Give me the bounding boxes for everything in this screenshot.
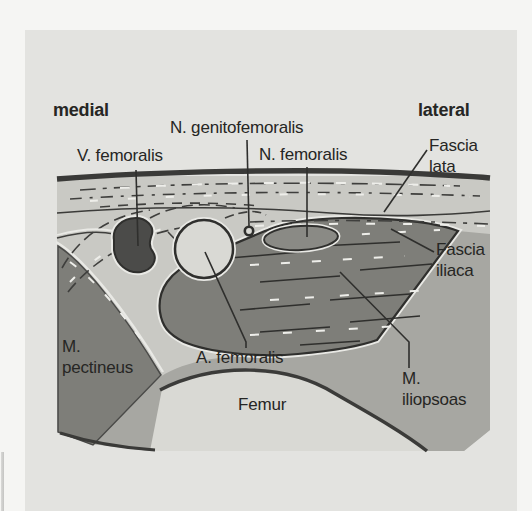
label-m-pectineus: M. pectineus — [62, 336, 133, 379]
label-n-genitofemoralis: N. genitofemoralis — [170, 117, 303, 138]
label-fascia-iliaca: Fascia iliaca — [436, 239, 485, 282]
label-v-femoralis: V. femoralis — [77, 145, 163, 166]
label-fascia-lata: Fascia lata — [429, 135, 478, 178]
label-femur: Femur — [238, 394, 286, 415]
femoral-artery-shape — [175, 220, 233, 278]
label-m-iliopsoas: M. iliopsoas — [402, 368, 466, 411]
femoral-vein-shape — [114, 218, 155, 272]
scanned-figure-page: medial lateral N. genitofemoralis V. fem… — [0, 0, 532, 511]
orientation-label-lateral: lateral — [418, 99, 470, 122]
genitofemoral-nerve-shape — [245, 227, 253, 235]
label-a-femoralis: A. femoralis — [196, 347, 283, 368]
orientation-label-medial: medial — [53, 99, 109, 122]
label-n-femoralis: N. femoralis — [259, 144, 347, 165]
